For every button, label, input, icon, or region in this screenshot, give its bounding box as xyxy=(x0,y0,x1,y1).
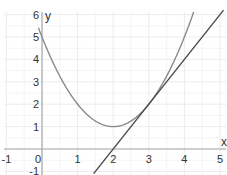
y-tick-label: 5 xyxy=(33,31,39,43)
x-tick-label: 0 xyxy=(35,153,41,165)
x-axis-label: x xyxy=(221,135,227,149)
x-tick-label: 1 xyxy=(75,153,81,165)
x-tick-label: 4 xyxy=(181,153,187,165)
tick-labels: -1012345654321-1yx xyxy=(2,9,227,175)
x-tick-label: -1 xyxy=(2,153,12,165)
y-tick-label: 1 xyxy=(33,121,39,133)
function-plot: -1012345654321-1yx xyxy=(0,0,227,175)
x-tick-label: 3 xyxy=(146,153,152,165)
y-tick-label: -1 xyxy=(29,165,39,175)
y-axis-label: y xyxy=(45,9,51,23)
y-tick-label: 3 xyxy=(33,76,39,88)
y-tick-label: 6 xyxy=(33,9,39,21)
x-tick-label: 5 xyxy=(217,153,223,165)
y-tick-label: 2 xyxy=(33,98,39,110)
x-tick-label: 2 xyxy=(110,153,116,165)
parabola-curve xyxy=(38,12,193,127)
y-tick-label: 4 xyxy=(33,53,39,65)
